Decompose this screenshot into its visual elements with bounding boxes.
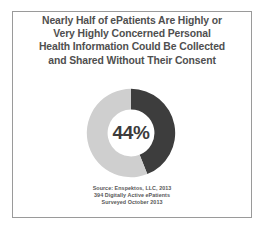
donut-slices — [87, 89, 175, 177]
source-note: Source: Enspektos, LLC, 2013 394 Digital… — [14, 185, 250, 207]
source-line-3: Surveyed October 2013 — [14, 199, 250, 206]
donut-ring — [84, 86, 178, 180]
donut-svg — [84, 86, 178, 180]
slide-canvas: Nearly Half of ePatients Are Highly or V… — [0, 0, 265, 231]
source-line-1: Source: Enspektos, LLC, 2013 — [14, 185, 250, 192]
source-line-2: 394 Digitally Active ePatients — [14, 192, 250, 199]
